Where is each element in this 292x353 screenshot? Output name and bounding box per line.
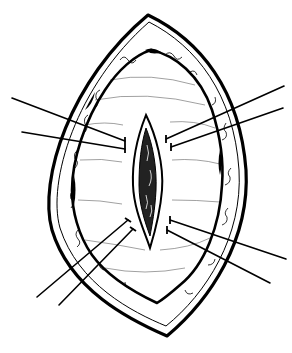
illustration-canvas — [0, 0, 292, 353]
surgical-incision-illustration — [0, 0, 292, 353]
